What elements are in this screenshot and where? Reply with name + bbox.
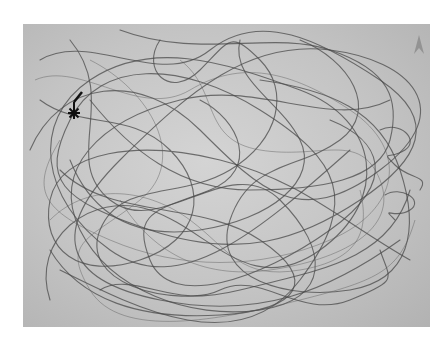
start-asterisk-marker	[66, 88, 90, 122]
tangled-trace-lines	[0, 0, 445, 338]
arrow-marker	[412, 34, 426, 56]
